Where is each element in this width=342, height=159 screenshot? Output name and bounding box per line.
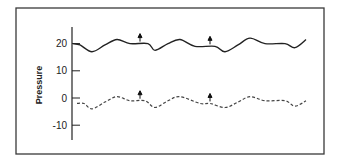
up-arrow-icon [138,34,142,42]
y-tick-label: -10 [53,120,68,131]
up-arrow-icon [138,91,142,99]
upper-pressure-trace [73,38,306,52]
pressure-chart: 20100-10 Pressure [0,0,342,159]
up-arrow-icon [208,93,212,101]
y-axis-label: Pressure [34,66,44,105]
y-tick-label: 0 [61,93,67,104]
lower-pressure-trace [77,97,306,109]
chart-frame [16,8,324,154]
y-tick-label: 20 [56,38,68,49]
y-axis-ticks: 20100-10 [53,38,80,131]
y-tick-label: 10 [56,65,68,76]
up-arrow-icon [208,36,212,44]
